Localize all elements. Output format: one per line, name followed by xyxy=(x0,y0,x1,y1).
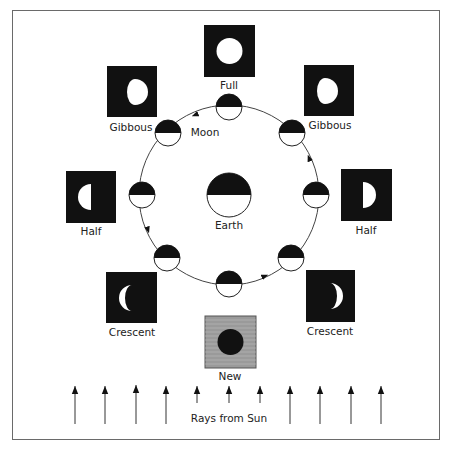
new-phase-box xyxy=(205,316,256,368)
moon-icon xyxy=(303,182,329,208)
label-moon: Moon xyxy=(191,126,220,138)
moon-icon xyxy=(216,271,242,297)
moon-icon xyxy=(216,94,242,120)
half-right-phase-box xyxy=(341,169,392,221)
label-full: Full xyxy=(220,79,238,91)
gibbous-left-phase-box xyxy=(107,66,157,117)
label-crescent-left: Crescent xyxy=(109,326,155,338)
gibbous-right-phase-box xyxy=(304,65,354,116)
crescent-right-phase-box xyxy=(306,270,355,322)
moon-icon xyxy=(155,120,181,146)
moon-icon xyxy=(279,120,305,146)
label-crescent-right: Crescent xyxy=(307,325,353,337)
label-rays-from-sun: Rays from Sun xyxy=(191,412,267,424)
label-half-left: Half xyxy=(81,225,102,237)
moon-icon xyxy=(154,245,180,271)
crescent-left-phase-box xyxy=(106,272,157,323)
full-phase-box xyxy=(204,25,255,77)
label-gibbous-right: Gibbous xyxy=(309,119,352,131)
moon-icon xyxy=(278,245,304,271)
earth-icon xyxy=(207,173,251,217)
label-half-right: Half xyxy=(356,224,377,236)
label-gibbous-left: Gibbous xyxy=(110,121,153,133)
moon-icon xyxy=(129,182,155,208)
label-new: New xyxy=(219,370,242,382)
half-left-phase-box xyxy=(66,171,116,223)
label-earth: Earth xyxy=(215,219,243,231)
